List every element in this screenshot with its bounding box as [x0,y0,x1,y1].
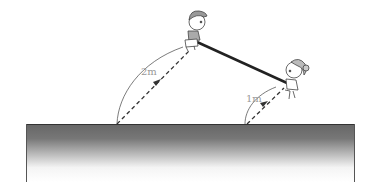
arrow-icon [153,79,161,86]
right-distance-indicator: 1m [245,87,284,124]
left-distance-label: 2m [141,66,157,77]
left-distance-indicator: 2m [117,47,190,124]
seesaw-diagram: 2m 1m [0,0,377,193]
girl-figure-icon [285,59,309,99]
ground [26,124,355,182]
seesaw-plank [197,42,287,83]
right-distance-label: 1m [246,93,262,104]
